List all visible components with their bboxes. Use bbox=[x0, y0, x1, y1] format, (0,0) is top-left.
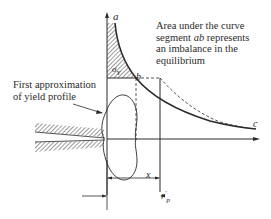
equilibrium-annotation: Area under the curve segment ab represen… bbox=[156, 20, 249, 66]
yield-zone-diagram: Area under the curve segment ab represen… bbox=[0, 0, 271, 219]
yield-stress-label: σY bbox=[112, 64, 120, 77]
point-c-label: c bbox=[253, 118, 257, 130]
x-axis-arrow-icon bbox=[253, 137, 260, 141]
annotation-line-2: segment ab represents bbox=[156, 32, 249, 44]
point-a-label: a bbox=[113, 11, 119, 23]
annotation-line-3: an imbalance in the bbox=[156, 43, 249, 55]
redistributed-curve-dashed bbox=[160, 78, 250, 128]
annotation-line-1: Area under the curve bbox=[156, 20, 249, 32]
yield-profile-label: First approximation of yield profile bbox=[13, 79, 96, 102]
dimension-rp-label: r′p bbox=[161, 190, 170, 204]
annotation-line-4: equilibrium bbox=[156, 55, 249, 67]
y-axis-arrow-icon bbox=[105, 12, 109, 18]
dimension-x-label: x bbox=[146, 169, 150, 181]
lower-crack-face bbox=[35, 141, 104, 152]
point-b-label: b bbox=[136, 71, 141, 83]
